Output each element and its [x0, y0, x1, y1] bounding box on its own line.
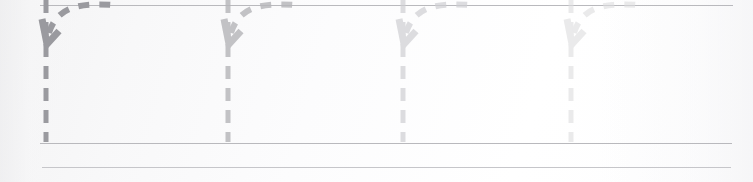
- secondary-rule: [42, 167, 731, 168]
- arrow-2-svg: [216, 0, 307, 148]
- loop-back-arrow-1: [34, 0, 125, 148]
- arrow-4-svg: [559, 0, 650, 148]
- arrow-3-curve: [406, 4, 470, 33]
- arrow-3-svg: [391, 0, 482, 148]
- arrow-1-curve: [49, 4, 113, 33]
- loop-back-arrow-3: [391, 0, 482, 148]
- arrow-2-curve: [231, 4, 295, 33]
- loop-back-arrow-4: [559, 0, 650, 148]
- arrow-1-svg: [34, 0, 125, 148]
- arrow-4-curve: [574, 4, 638, 33]
- diagram-canvas: [0, 0, 753, 182]
- loop-back-arrow-2: [216, 0, 307, 148]
